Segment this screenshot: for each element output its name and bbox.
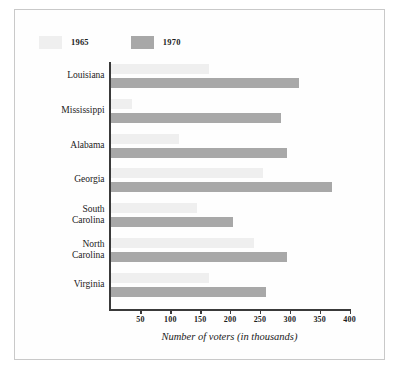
x-axis-tick [320, 309, 321, 314]
x-axis-tick [230, 309, 231, 314]
x-axis-tick [140, 309, 141, 314]
bar-1970-north-carolina [111, 252, 287, 262]
category-label: Virginia [74, 279, 105, 290]
x-axis-tick [170, 309, 171, 314]
x-axis-tick-label: 350 [313, 315, 326, 324]
x-axis-tick-label: 100 [164, 315, 177, 324]
plot-area: LouisianaMississippiAlabamaGeorgiaSouthC… [109, 62, 364, 312]
bar-1965-north-carolina [111, 238, 254, 248]
category-label: SouthCarolina [72, 204, 105, 225]
x-axis-tick-label: 300 [284, 315, 297, 324]
bar-1970-alabama [111, 148, 287, 158]
legend-item-1965: 1965 [39, 36, 89, 49]
category-label: Alabama [70, 140, 104, 151]
bar-1970-virginia [111, 287, 266, 297]
bar-1965-louisiana [111, 64, 210, 74]
x-axis-tick [350, 309, 351, 314]
x-axis-label: Number of voters (in thousands) [109, 331, 350, 342]
category-label: NorthCarolina [72, 239, 105, 260]
x-axis-tick-label: 400 [343, 315, 356, 324]
bar-1965-mississippi [111, 99, 132, 109]
x-axis-tick [290, 309, 291, 314]
chart-figure: 1965 1970 LouisianaMississippiAlabamaGeo… [14, 9, 385, 360]
bar-1970-louisiana [111, 78, 299, 88]
x-axis-tick-label: 50 [136, 315, 144, 324]
legend-swatch-1965-icon [39, 36, 62, 49]
bar-1965-south-carolina [111, 203, 198, 213]
bar-1965-georgia [111, 168, 263, 178]
category-label: Mississippi [61, 105, 104, 116]
x-axis-tick [260, 309, 261, 314]
x-axis-tick [200, 309, 201, 314]
x-axis-tick-label: 200 [224, 315, 237, 324]
chart-legend: 1965 1970 [39, 34, 223, 50]
x-axis-tick-label: 250 [254, 315, 267, 324]
category-label: Louisiana [67, 70, 104, 81]
legend-item-1970: 1970 [131, 36, 181, 49]
bar-1970-south-carolina [111, 217, 233, 227]
category-label: Georgia [74, 174, 104, 185]
bar-1965-alabama [111, 134, 180, 144]
legend-swatch-1970-icon [131, 36, 154, 49]
legend-label-1970: 1970 [163, 37, 181, 47]
x-axis-tick-label: 150 [194, 315, 207, 324]
bar-1970-georgia [111, 182, 332, 192]
bar-1965-virginia [111, 273, 210, 283]
legend-label-1965: 1965 [71, 37, 89, 47]
bar-1970-mississippi [111, 113, 281, 123]
